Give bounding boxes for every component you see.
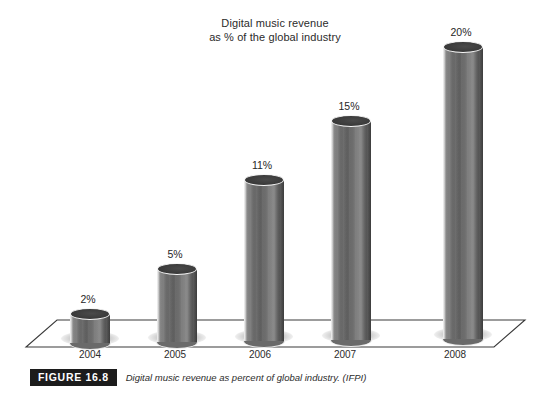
axis-label-2004: 2004 — [60, 349, 120, 360]
bar-value-label: 5% — [150, 248, 200, 260]
figure-number-badge: FIGURE 16.8 — [30, 369, 117, 386]
bar-value-label: 2% — [63, 293, 113, 305]
cylinder-body — [157, 269, 197, 342]
bar-2004[interactable]: 2%2004 — [70, 0, 110, 360]
axis-label-2007: 2007 — [315, 349, 375, 360]
axis-label-2006: 2006 — [230, 349, 290, 360]
axis-label-2008: 2008 — [425, 349, 485, 360]
figure-caption-text: Digital music revenue as percent of glob… — [126, 372, 367, 383]
figure-caption: FIGURE 16.8 Digital music revenue as per… — [30, 369, 366, 386]
bar-2008[interactable]: 20%2008 — [443, 0, 483, 360]
bar-2007[interactable]: 15%2007 — [331, 0, 371, 360]
cylinder-body — [244, 180, 284, 341]
bars-layer: 2%20045%200511%200615%200720%2008 — [0, 0, 547, 360]
axis-label-2005: 2005 — [145, 349, 205, 360]
cylinder-body — [443, 47, 483, 339]
cylinder-top-ellipse — [443, 41, 483, 53]
cylinder-top-ellipse — [331, 115, 371, 127]
bar-value-label: 15% — [324, 100, 374, 112]
cylinder-2008 — [443, 41, 483, 345]
cylinder-top-ellipse — [70, 308, 110, 320]
cylinder-top-ellipse — [157, 263, 197, 275]
bar-2005[interactable]: 5%2005 — [157, 0, 197, 360]
cylinder-2006 — [244, 174, 284, 347]
cylinder-2005 — [157, 263, 197, 348]
cylinder-2007 — [331, 115, 371, 346]
cylinder-2004 — [70, 308, 110, 349]
bar-value-label: 20% — [436, 26, 486, 38]
bar-value-label: 11% — [237, 159, 287, 171]
cylinder-body — [331, 121, 371, 340]
bar-2006[interactable]: 11%2006 — [244, 0, 284, 360]
figure-container: Digital music revenue as % of the global… — [0, 0, 547, 400]
